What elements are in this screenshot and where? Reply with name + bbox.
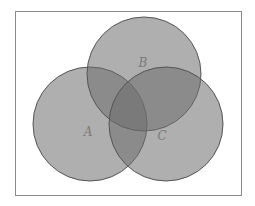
set-b-label: B — [138, 56, 148, 70]
set-c-label: C — [157, 129, 166, 143]
set-c-circle — [109, 67, 223, 181]
set-a-label: A — [83, 125, 93, 139]
venn-diagram: A B C — [0, 0, 255, 206]
